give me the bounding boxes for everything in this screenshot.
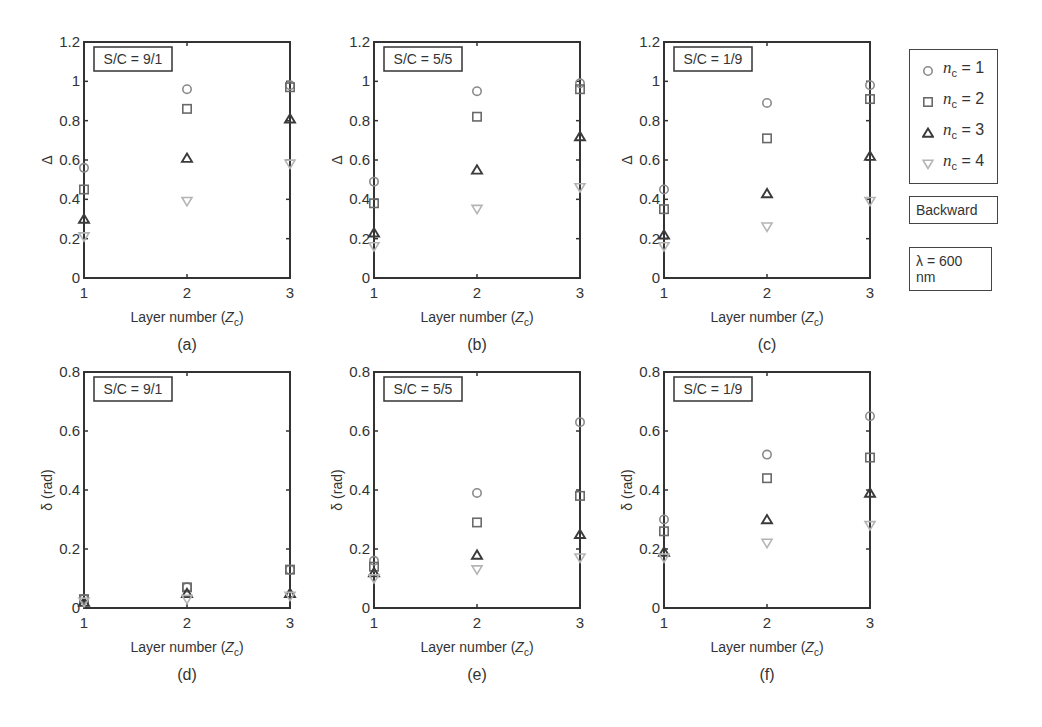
x-tick-label: 1 [80, 614, 88, 631]
y-tick-label: 0.4 [639, 481, 660, 498]
legend-item-nc1: nc = 1 [910, 56, 997, 82]
y-tick-label: 0.6 [59, 151, 80, 168]
plot-area [374, 42, 580, 278]
y-tick-label: 0.8 [349, 363, 370, 380]
y-axis-label: Δ [40, 155, 55, 164]
x-tick-label: 2 [473, 284, 481, 301]
x-tick-label: 2 [763, 284, 771, 301]
plot-area [84, 372, 290, 608]
triangle-down-marker-icon [922, 156, 934, 168]
sc-ratio-label: S/C = 1/9 [684, 51, 743, 67]
y-tick-label: 1 [362, 72, 370, 89]
x-tick-label: 2 [473, 614, 481, 631]
x-tick-label: 1 [660, 614, 668, 631]
panel-caption: (e) [467, 666, 487, 683]
y-tick-label: 0.8 [639, 363, 660, 380]
legend-label: nc = 4 [943, 151, 984, 172]
panel-c: 00.20.40.60.811.2123Layer number (Zc)Δ(c… [620, 30, 880, 364]
y-axis-label: Δ [330, 155, 345, 164]
y-tick-label: 0.4 [639, 190, 660, 207]
y-tick-label: 0.2 [639, 540, 660, 557]
y-tick-label: 1 [652, 72, 660, 89]
y-tick-label: 0 [362, 269, 370, 286]
panel-caption: (b) [467, 336, 487, 353]
y-tick-label: 1 [72, 72, 80, 89]
y-tick-label: 0.2 [59, 230, 80, 247]
sc-ratio-label: S/C = 9/1 [104, 51, 163, 67]
sc-ratio-label: S/C = 5/5 [394, 51, 453, 67]
y-tick-label: 0.4 [59, 481, 80, 498]
panel-f: 00.20.40.60.8123Layer number (Zc)δ (rad)… [620, 360, 880, 694]
y-tick-label: 0 [72, 269, 80, 286]
y-tick-label: 0.6 [639, 151, 660, 168]
x-tick-label: 1 [370, 614, 378, 631]
legend: nc = 1 nc = 2 nc = 3 nc = 4 [909, 49, 998, 184]
y-tick-label: 0.4 [59, 190, 80, 207]
y-tick-label: 0.8 [59, 112, 80, 129]
y-tick-label: 0.6 [349, 151, 370, 168]
x-axis-label: Layer number (Zc) [130, 309, 243, 328]
y-tick-label: 0.4 [349, 481, 370, 498]
y-tick-label: 1.2 [349, 33, 370, 50]
panel-e: 00.20.40.60.8123Layer number (Zc)δ (rad)… [330, 360, 590, 694]
y-tick-label: 0.2 [349, 230, 370, 247]
legend-item-nc3: nc = 3 [910, 118, 997, 144]
y-tick-label: 0.2 [349, 540, 370, 557]
plot-area [84, 42, 290, 278]
x-axis-label: Layer number (Zc) [420, 309, 533, 328]
panel-d: 00.20.40.60.8123Layer number (Zc)δ (rad)… [40, 360, 300, 694]
y-tick-label: 0.6 [349, 422, 370, 439]
x-tick-label: 3 [286, 614, 294, 631]
sc-ratio-label: S/C = 1/9 [684, 381, 743, 397]
legend-label: nc = 2 [943, 89, 984, 110]
y-tick-label: 0.6 [639, 422, 660, 439]
x-tick-label: 1 [370, 284, 378, 301]
y-tick-label: 1.2 [59, 33, 80, 50]
y-tick-label: 0.8 [59, 363, 80, 380]
direction-label: Backward [909, 196, 998, 224]
panel-caption: (a) [177, 336, 197, 353]
sc-ratio-label: S/C = 9/1 [104, 381, 163, 397]
y-tick-label: 0 [362, 599, 370, 616]
y-tick-label: 0 [652, 269, 660, 286]
x-tick-label: 1 [80, 284, 88, 301]
square-marker-icon [922, 94, 934, 106]
y-tick-label: 0.8 [639, 112, 660, 129]
y-axis-label: δ (rad) [620, 469, 635, 510]
x-tick-label: 3 [576, 614, 584, 631]
legend-item-nc2: nc = 2 [910, 87, 997, 113]
x-tick-label: 2 [183, 614, 191, 631]
y-axis-label: δ (rad) [40, 469, 55, 510]
y-axis-label: Δ [620, 155, 635, 164]
wavelength-label: λ = 600 nm [909, 247, 992, 291]
y-tick-label: 0 [652, 599, 660, 616]
x-axis-label: Layer number (Zc) [710, 309, 823, 328]
y-tick-label: 0.8 [349, 112, 370, 129]
y-axis-label: δ (rad) [330, 469, 345, 510]
y-tick-label: 0.4 [349, 190, 370, 207]
x-tick-label: 3 [576, 284, 584, 301]
x-tick-label: 3 [866, 614, 874, 631]
panel-caption: (d) [177, 666, 197, 683]
y-tick-label: 0.6 [59, 422, 80, 439]
panel-caption: (c) [758, 336, 777, 353]
panel-a: 00.20.40.60.811.2123Layer number (Zc)Δ(a… [40, 30, 300, 364]
y-tick-label: 1.2 [639, 33, 660, 50]
y-tick-label: 0 [72, 599, 80, 616]
panel-caption: (f) [759, 666, 774, 683]
x-tick-label: 3 [286, 284, 294, 301]
x-axis-label: Layer number (Zc) [420, 639, 533, 658]
legend-item-nc4: nc = 4 [910, 149, 997, 175]
x-axis-label: Layer number (Zc) [710, 639, 823, 658]
x-tick-label: 2 [183, 284, 191, 301]
legend-label: nc = 1 [943, 58, 984, 79]
legend-label: nc = 3 [943, 120, 984, 141]
sc-ratio-label: S/C = 5/5 [394, 381, 453, 397]
x-axis-label: Layer number (Zc) [130, 639, 243, 658]
triangle-up-marker-icon [922, 125, 934, 137]
y-tick-label: 0.2 [639, 230, 660, 247]
plot-area [664, 42, 870, 278]
plot-area [664, 372, 870, 608]
x-tick-label: 1 [660, 284, 668, 301]
x-tick-label: 2 [763, 614, 771, 631]
